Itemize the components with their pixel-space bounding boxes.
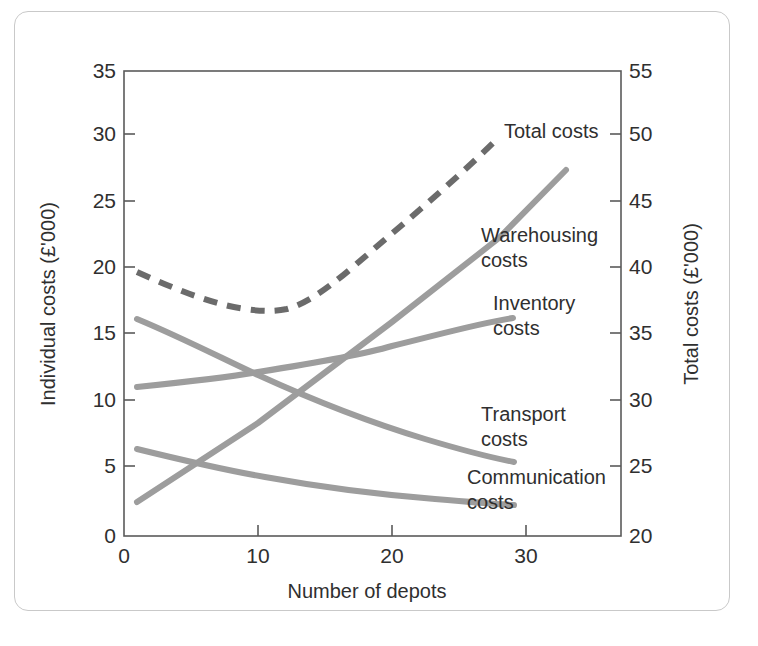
right-tick-35: 35 <box>629 321 652 344</box>
left-tick-25: 25 <box>93 189 116 212</box>
x-tick-20: 20 <box>380 544 403 567</box>
right-tick-55: 55 <box>629 59 652 82</box>
bottom-axis-tick-labels: 0 10 20 30 <box>118 544 538 567</box>
cost-vs-depots-chart: 35 30 25 20 15 10 5 0 55 50 45 40 35 30 … <box>15 12 731 612</box>
label-communication-costs-line1: Communication <box>467 466 606 488</box>
x-tick-0: 0 <box>118 544 130 567</box>
left-axis-tick-labels: 35 30 25 20 15 10 5 0 <box>93 59 116 547</box>
label-communication-costs-line2: costs <box>467 491 514 513</box>
right-tick-25: 25 <box>629 454 652 477</box>
label-transport-costs-line1: Transport <box>481 403 566 425</box>
right-axis-ticks <box>610 134 621 466</box>
y-axis-title-left: Individual costs (£'000) <box>37 202 59 406</box>
right-tick-50: 50 <box>629 122 652 145</box>
label-warehousing-costs-line1: Warehousing <box>481 224 598 246</box>
left-axis-ticks <box>124 134 135 466</box>
left-tick-10: 10 <box>93 388 116 411</box>
series-transport-costs <box>137 319 514 462</box>
label-total-costs: Total costs <box>504 120 598 142</box>
chart-figure-card: 35 30 25 20 15 10 5 0 55 50 45 40 35 30 … <box>14 11 730 611</box>
series-inventory-costs <box>137 318 513 387</box>
left-tick-5: 5 <box>104 454 116 477</box>
right-axis-tick-labels: 55 50 45 40 35 30 25 20 <box>629 59 652 547</box>
left-tick-35: 35 <box>93 59 116 82</box>
series-communication-costs <box>137 449 514 505</box>
left-tick-30: 30 <box>93 122 116 145</box>
right-tick-45: 45 <box>629 189 652 212</box>
x-axis-title: Number of depots <box>288 580 447 602</box>
label-inventory-costs-line2: costs <box>493 317 540 339</box>
label-transport-costs-line2: costs <box>481 428 528 450</box>
x-tick-10: 10 <box>246 544 269 567</box>
right-tick-40: 40 <box>629 255 652 278</box>
right-tick-30: 30 <box>629 388 652 411</box>
right-tick-20: 20 <box>629 524 652 547</box>
label-warehousing-costs-line2: costs <box>481 249 528 271</box>
left-tick-15: 15 <box>93 321 116 344</box>
y-axis-title-right: Total costs (£'000) <box>680 223 702 385</box>
label-inventory-costs-line1: Inventory <box>493 292 575 314</box>
left-tick-0: 0 <box>104 524 116 547</box>
left-tick-20: 20 <box>93 255 116 278</box>
x-tick-30: 30 <box>514 544 537 567</box>
bottom-axis-ticks <box>258 525 526 536</box>
